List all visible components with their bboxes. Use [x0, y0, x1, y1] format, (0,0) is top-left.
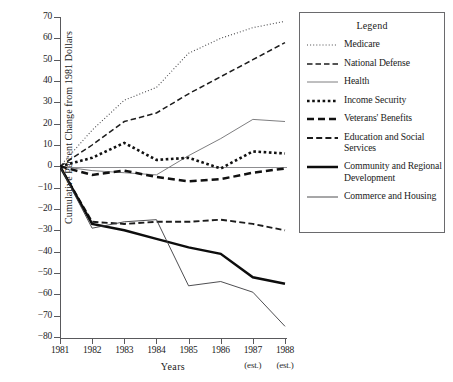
- legend-label-education-and-social-services: Education and Social Services: [344, 131, 444, 154]
- legend-swatch-health: [306, 75, 339, 87]
- y-tick-label: −60: [19, 288, 52, 299]
- y-tick-label-text: −50: [26, 267, 52, 277]
- x-tick: [124, 338, 125, 344]
- y-tick-label-text: −70: [26, 310, 52, 320]
- y-tick-label: −30: [19, 224, 52, 235]
- legend-label-community-and-regional-development: Community and Regional Development: [344, 160, 444, 183]
- legend-label-income-security: Income Security: [344, 94, 406, 106]
- series-line-medicare: [60, 21, 285, 166]
- series-line-community-and-regional-development: [60, 166, 285, 283]
- y-tick-label-text: 0: [26, 160, 52, 170]
- legend-swatch-commerce-and-housing: [306, 190, 339, 202]
- series-line-income-security: [60, 143, 285, 169]
- y-tick-label: −70: [19, 310, 52, 321]
- y-tick-label-text: −40: [26, 246, 52, 256]
- legend-title: Legend: [300, 20, 444, 31]
- y-tick-label-text: 40: [26, 75, 52, 85]
- legend-swatch-national-defense: [306, 57, 339, 69]
- legend-item-community-and-regional-development[interactable]: Community and Regional Development: [306, 160, 444, 183]
- legend-label-medicare: Medicare: [344, 38, 380, 50]
- legend-swatch-veterans-benefits: [306, 112, 339, 124]
- x-tick: [221, 338, 222, 344]
- series-layer: [60, 17, 286, 338]
- legend-swatch-medicare: [306, 38, 339, 50]
- legend-item-commerce-and-housing[interactable]: Commerce and Housing: [306, 190, 444, 202]
- legend-label-health: Health: [344, 75, 369, 87]
- y-tick-label-text: −10: [26, 182, 52, 192]
- legend-item-income-security[interactable]: Income Security: [306, 94, 444, 106]
- y-tick-label-text: 50: [26, 54, 52, 64]
- x-tick: [92, 338, 93, 344]
- y-tick-label: −50: [19, 267, 52, 278]
- x-tick: [156, 338, 157, 344]
- x-tick: [253, 338, 254, 344]
- y-tick-label: −80: [19, 331, 52, 342]
- x-tick: [60, 338, 61, 344]
- y-tick-label: 20: [19, 118, 52, 129]
- legend-label-commerce-and-housing: Commerce and Housing: [344, 190, 436, 202]
- y-tick-label-text: 10: [26, 139, 52, 149]
- y-tick-label: 10: [19, 139, 52, 150]
- legend-swatch-community-and-regional-development: [306, 160, 339, 172]
- y-tick-label: 50: [19, 54, 52, 65]
- y-tick-label: 70: [19, 11, 52, 22]
- legend-item-health[interactable]: Health: [306, 75, 444, 87]
- plot-area: [60, 17, 286, 338]
- y-tick-label-text: 30: [26, 96, 52, 106]
- y-tick-label-text: 20: [26, 118, 52, 128]
- y-tick-label: 30: [19, 96, 52, 107]
- legend-label-national-defense: National Defense: [344, 57, 410, 69]
- x-axis-title: Years: [118, 361, 228, 372]
- y-tick-label-text: −80: [26, 331, 52, 341]
- y-tick-label-text: −60: [26, 288, 52, 298]
- series-line-education-and-social-services: [60, 166, 285, 230]
- legend-item-national-defense[interactable]: National Defense: [306, 57, 444, 69]
- x-tick-annotation: (est.): [265, 360, 305, 370]
- x-tick-label: 1988: [265, 345, 305, 355]
- legend-entries: MedicareNational DefenseHealthIncome Sec…: [300, 38, 444, 202]
- legend: Legend MedicareNational DefenseHealthInc…: [299, 12, 445, 233]
- y-tick-label: 0: [19, 160, 52, 171]
- y-tick-label: −20: [19, 203, 52, 214]
- legend-item-veterans-benefits[interactable]: Veterans' Benefits: [306, 112, 444, 124]
- series-line-veterans-benefits: [60, 166, 285, 181]
- x-tick: [189, 338, 190, 344]
- y-tick-label: 60: [19, 32, 52, 43]
- y-tick-label-text: 70: [26, 11, 52, 21]
- y-tick-label: −40: [19, 246, 52, 257]
- series-line-health: [60, 119, 285, 174]
- series-line-national-defense: [60, 43, 285, 167]
- y-tick-label: 40: [19, 75, 52, 86]
- y-tick-label-text: −30: [26, 224, 52, 234]
- legend-item-medicare[interactable]: Medicare: [306, 38, 444, 50]
- chart-figure: Cumulative Percent Change from 1981 Doll…: [0, 0, 453, 382]
- x-tick: [285, 338, 286, 344]
- legend-item-education-and-social-services[interactable]: Education and Social Services: [306, 131, 444, 154]
- y-tick-label: −10: [19, 182, 52, 193]
- legend-swatch-education-and-social-services: [306, 131, 339, 143]
- legend-label-veterans-benefits: Veterans' Benefits: [344, 112, 412, 124]
- y-tick-label-text: −20: [26, 203, 52, 213]
- legend-swatch-income-security: [306, 94, 339, 106]
- y-tick-label-text: 60: [26, 32, 52, 42]
- series-line-commerce-and-housing: [60, 166, 285, 326]
